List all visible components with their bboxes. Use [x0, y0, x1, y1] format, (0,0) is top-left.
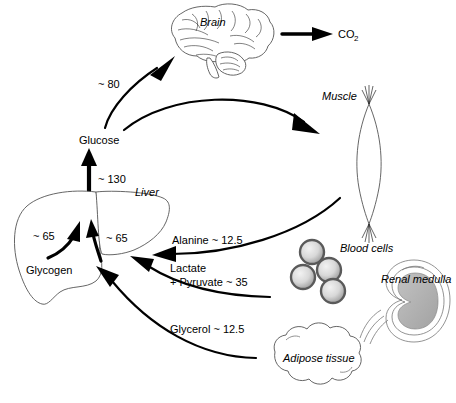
brain-label: Brain	[200, 16, 226, 28]
flux-glycerol: Glycerol ~ 12.5	[170, 323, 244, 335]
flux-pyruvate: + Pyruvate ~ 35	[170, 276, 248, 288]
liver-to-glucose-arrow	[81, 148, 97, 192]
blood-cells-label: Blood cells	[340, 242, 394, 254]
liver-illustration	[14, 191, 169, 304]
adipose-tissue-label: Adipose tissue	[282, 352, 355, 364]
renal-medulla-label: Renal medulla	[381, 273, 451, 285]
glucose-to-brain-arrow	[105, 56, 175, 128]
flux-liver-to-glucose: ~ 130	[98, 173, 126, 185]
flux-lactate: Lactate	[170, 262, 206, 274]
co2-label: CO	[338, 28, 355, 40]
brain-illustration: Brain	[171, 4, 273, 78]
adipose-tissue-illustration: Adipose tissue	[274, 323, 361, 384]
brain-to-co2-arrow	[282, 27, 333, 41]
co2-subscript: 2	[354, 34, 359, 43]
blood-cells-illustration	[291, 240, 345, 303]
diagram-canvas: Brain CO 2 ~ 80 Glucose ~ 130	[0, 0, 456, 403]
metabolic-flux-diagram: Brain CO 2 ~ 80 Glucose ~ 130	[0, 0, 456, 403]
flux-glycogen-left: ~ 65	[33, 230, 55, 242]
flux-glycogen-right: ~ 65	[106, 232, 128, 244]
glucose-to-muscle-arrow	[124, 100, 320, 134]
flux-glucose-to-brain: ~ 80	[98, 78, 120, 90]
glucose-label: Glucose	[79, 134, 119, 146]
muscle-illustration	[357, 85, 381, 243]
co2-label-group: CO 2	[338, 28, 359, 43]
muscle-label: Muscle	[322, 90, 357, 102]
glycogen-label: Glycogen	[26, 264, 72, 276]
liver-label: Liver	[135, 186, 160, 198]
flux-alanine: Alanine ~ 12.5	[172, 234, 243, 246]
